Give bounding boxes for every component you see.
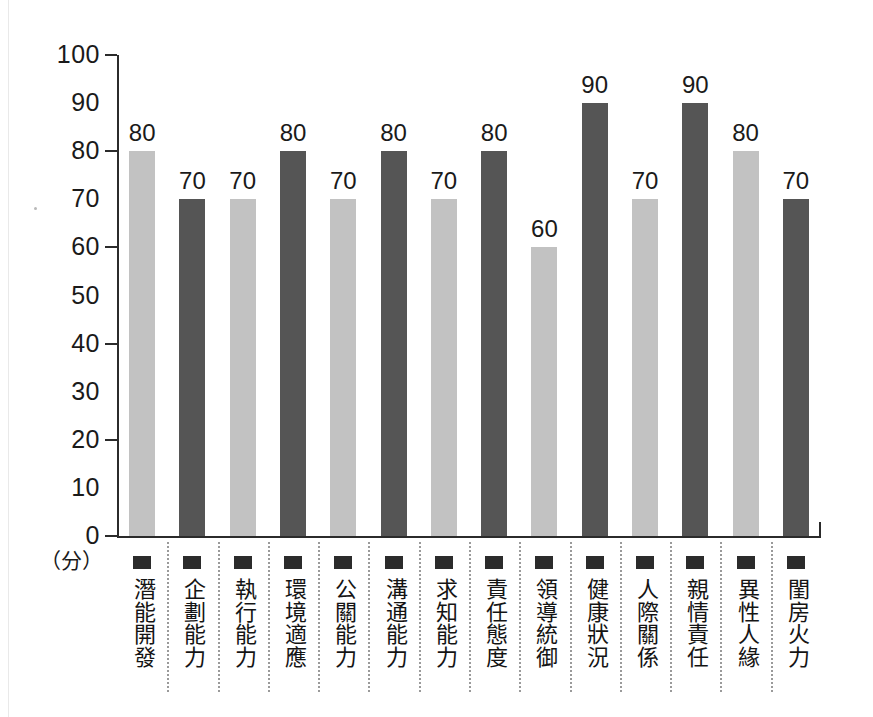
bar-value-label: 80	[732, 121, 759, 145]
bar-column: 80	[280, 55, 306, 536]
category-label-5: 公關能力	[318, 538, 368, 717]
category-marker-square-icon	[234, 556, 252, 569]
category-marker-square-icon	[133, 556, 151, 569]
bar	[129, 151, 155, 536]
bar-value-label: 80	[129, 121, 156, 145]
bar-value-label: 70	[782, 169, 809, 193]
category-label-8: 責任態度	[469, 538, 519, 717]
category-marker-square-icon	[636, 556, 654, 569]
y-axis-tick-mark	[105, 54, 117, 56]
bar-value-label: 70	[632, 169, 659, 193]
category-marker-square-icon	[385, 556, 403, 569]
bar	[531, 247, 557, 536]
category-label-text: 求知能力	[432, 578, 456, 668]
category-marker-square-icon	[686, 556, 704, 569]
y-axis-tick-mark	[105, 246, 117, 248]
bar	[682, 103, 708, 536]
category-label-strip: 潛能開發企劃能力執行能力環境適應公關能力溝通能力求知能力責任態度領導統御健康狀況…	[117, 538, 821, 717]
category-marker-square-icon	[787, 556, 805, 569]
category-label-3: 執行能力	[218, 538, 268, 717]
bar-value-label: 70	[330, 169, 357, 193]
category-label-text: 閨房火力	[784, 578, 808, 668]
category-label-text: 領導統御	[532, 578, 556, 668]
bar-value-label: 90	[581, 73, 608, 97]
bar	[280, 151, 306, 536]
bar	[431, 199, 457, 536]
bar-column: 70	[783, 55, 809, 536]
category-marker-square-icon	[284, 556, 302, 569]
category-label-14: 閨房火力	[771, 538, 821, 717]
category-label-text: 潛能開發	[130, 578, 154, 668]
category-marker-square-icon	[737, 556, 755, 569]
bar-column: 80	[481, 55, 507, 536]
bar	[582, 103, 608, 536]
bar	[230, 199, 256, 536]
bar-column: 70	[330, 55, 356, 536]
category-label-text: 責任態度	[482, 578, 506, 668]
bar-column: 60	[531, 55, 557, 536]
bar-column: 90	[582, 55, 608, 536]
bar-column: 70	[431, 55, 457, 536]
category-label-text: 親情責任	[683, 578, 707, 668]
category-label-11: 人際關係	[620, 538, 670, 717]
y-axis-tick-mark	[105, 439, 117, 441]
bar-value-label: 70	[179, 169, 206, 193]
category-label-text: 溝通能力	[382, 578, 406, 668]
chart-page: 0102030405060708090100 （分） 8070708070807…	[0, 0, 873, 717]
bar-value-label: 60	[531, 217, 558, 241]
category-label-1: 潛能開發	[117, 538, 167, 717]
bar	[179, 199, 205, 536]
y-axis-tick-mark	[105, 535, 117, 537]
category-label-text: 企劃能力	[180, 578, 204, 668]
category-marker-square-icon	[485, 556, 503, 569]
bar-value-label: 90	[682, 73, 709, 97]
category-label-13: 異性人緣	[720, 538, 770, 717]
bar-column: 70	[179, 55, 205, 536]
bar-value-label: 80	[280, 121, 307, 145]
category-label-7: 求知能力	[419, 538, 469, 717]
bar-column: 70	[632, 55, 658, 536]
bar	[330, 199, 356, 536]
bar	[481, 151, 507, 536]
bar	[783, 199, 809, 536]
category-label-2: 企劃能力	[167, 538, 217, 717]
category-label-text: 執行能力	[231, 578, 255, 668]
y-axis-tick-mark	[105, 150, 117, 152]
bar-value-label: 70	[229, 169, 256, 193]
category-label-6: 溝通能力	[368, 538, 418, 717]
bar-column: 80	[733, 55, 759, 536]
category-label-9: 領導統御	[519, 538, 569, 717]
bar-chart-plot: 0102030405060708090100 （分） 8070708070807…	[0, 0, 873, 717]
y-axis-tick-mark	[105, 343, 117, 345]
category-label-10: 健康狀況	[570, 538, 620, 717]
bar-value-label: 70	[430, 169, 457, 193]
category-marker-square-icon	[183, 556, 201, 569]
category-label-12: 親情責任	[670, 538, 720, 717]
category-label-text: 人際關係	[633, 578, 657, 668]
bar-column: 80	[129, 55, 155, 536]
bar	[733, 151, 759, 536]
bar	[381, 151, 407, 536]
category-marker-square-icon	[586, 556, 604, 569]
category-label-4: 環境適應	[268, 538, 318, 717]
category-marker-square-icon	[435, 556, 453, 569]
bar-column: 90	[682, 55, 708, 536]
category-label-text: 環境適應	[281, 578, 305, 668]
category-marker-square-icon	[535, 556, 553, 569]
bar	[632, 199, 658, 536]
bar-column: 80	[381, 55, 407, 536]
bar-value-label: 80	[380, 121, 407, 145]
category-label-text: 公關能力	[331, 578, 355, 668]
bar-column: 70	[230, 55, 256, 536]
category-label-text: 異性人緣	[734, 578, 758, 668]
category-label-text: 健康狀況	[583, 578, 607, 668]
bar-value-label: 80	[481, 121, 508, 145]
category-marker-square-icon	[334, 556, 352, 569]
